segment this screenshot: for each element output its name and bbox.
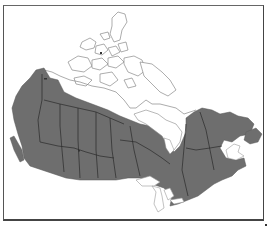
gulf-of-st-lawrence: [226, 144, 244, 160]
corner-mark: [265, 224, 267, 226]
canada-range-map: [0, 0, 272, 229]
range-shaded-region: [12, 68, 254, 206]
